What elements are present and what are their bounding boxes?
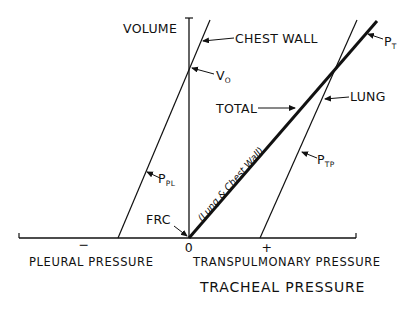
zero-tick: 0 bbox=[185, 240, 193, 255]
total-annotation: (Lung & Chest Wall) bbox=[195, 145, 265, 223]
pleural-pressure-label: PLEURAL PRESSURE bbox=[29, 255, 154, 269]
chest-wall-arrow bbox=[203, 38, 234, 41]
ptp-label: PTP bbox=[317, 152, 335, 169]
y-axis bbox=[185, 18, 193, 238]
lung-line bbox=[260, 20, 357, 238]
frc-arrow bbox=[174, 226, 187, 236]
ppl-label: PPL bbox=[158, 171, 176, 188]
v0-label: VO bbox=[216, 68, 231, 85]
lung-label: LUNG bbox=[350, 89, 386, 104]
transpulmonary-pressure-label: TRANSPULMONARY PRESSURE bbox=[192, 255, 381, 269]
lung-arrow bbox=[325, 97, 349, 99]
frc-label: FRC bbox=[146, 212, 171, 227]
ptp-arrow bbox=[302, 152, 317, 158]
x-axis bbox=[19, 233, 356, 238]
y-axis-label: VOLUME bbox=[123, 21, 177, 36]
chest-wall-label: CHEST WALL bbox=[235, 31, 318, 46]
pt-arrow bbox=[368, 34, 383, 39]
v0-arrow bbox=[192, 68, 214, 74]
x-axis-title: TRACHEAL PRESSURE bbox=[199, 279, 365, 295]
chest-wall-line bbox=[118, 20, 210, 238]
minus-tick: − bbox=[79, 237, 90, 252]
pressure-volume-diagram: VOLUME CHEST WALL VO PT TOTAL LUNG PPL P… bbox=[0, 0, 409, 313]
plus-tick: + bbox=[262, 240, 273, 255]
pt-label: PT bbox=[384, 34, 397, 51]
total-label: TOTAL bbox=[215, 101, 257, 116]
